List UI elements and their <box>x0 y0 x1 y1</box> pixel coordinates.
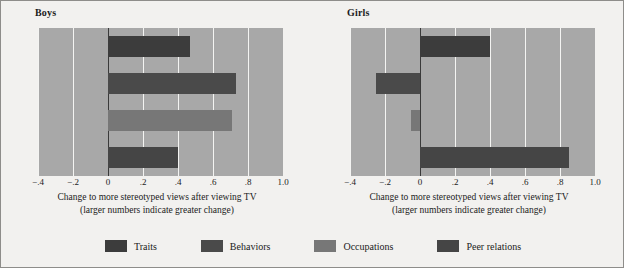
x-axis-ticks-girls: −.4−.20.2.4.6.81.0 <box>350 177 595 191</box>
bar <box>420 36 490 57</box>
x-axis-label-girls: Change to more stereotyped views after v… <box>313 191 624 204</box>
x-axis-ticks-boys: −.4−.20.2.4.6.81.0 <box>38 177 283 191</box>
legend-swatch <box>201 240 223 252</box>
figure-container: Boys −.4−.20.2.4.6.81.0 Change to more s… <box>0 0 624 268</box>
bar <box>420 147 569 168</box>
x-axis-caption-girls: Change to more stereotyped views after v… <box>313 191 624 216</box>
gridline <box>38 28 39 176</box>
x-tick-label: .2 <box>452 177 459 187</box>
x-tick-label: .8 <box>557 177 564 187</box>
panel-title-boys: Boys <box>35 7 56 18</box>
legend-item: Peer relations <box>437 240 521 252</box>
x-tick-label: 1.0 <box>277 177 288 187</box>
legend-item: Traits <box>105 240 157 252</box>
bar <box>376 73 420 94</box>
legend-swatch <box>105 240 127 252</box>
bar <box>108 147 178 168</box>
legend-item: Occupations <box>314 240 393 252</box>
x-axis-sublabel-girls: (larger numbers indicate greater change) <box>313 204 624 217</box>
panel-girls: Girls −.4−.20.2.4.6.81.0 Change to more … <box>313 1 624 229</box>
gridline <box>350 28 351 176</box>
x-tick-label: −.4 <box>32 177 44 187</box>
x-tick-label: .4 <box>487 177 494 187</box>
x-tick-label: −.2 <box>67 177 79 187</box>
legend-label: Occupations <box>343 241 393 252</box>
x-tick-label: .6 <box>210 177 217 187</box>
bar <box>108 73 236 94</box>
x-tick-label: .8 <box>245 177 252 187</box>
x-tick-label: 1.0 <box>589 177 600 187</box>
x-axis-label-boys: Change to more stereotyped views after v… <box>1 191 313 204</box>
chart-legend: TraitsBehaviorsOccupationsPeer relations <box>1 235 624 257</box>
plot-canvas-girls <box>350 28 595 176</box>
legend-item: Behaviors <box>201 240 271 252</box>
plot-area-girls <box>350 28 595 176</box>
gridline <box>248 28 249 176</box>
legend-label: Traits <box>134 241 157 252</box>
gridline <box>385 28 386 176</box>
x-tick-label: −.2 <box>379 177 391 187</box>
plot-canvas-boys <box>38 28 283 176</box>
legend-label: Peer relations <box>466 241 521 252</box>
x-tick-label: .6 <box>522 177 529 187</box>
panel-boys: Boys −.4−.20.2.4.6.81.0 Change to more s… <box>1 1 313 229</box>
gridline <box>73 28 74 176</box>
x-axis-sublabel-boys: (larger numbers indicate greater change) <box>1 204 313 217</box>
x-tick-label: 0 <box>106 177 111 187</box>
bar <box>108 36 190 57</box>
plot-area-boys <box>38 28 283 176</box>
x-tick-label: .2 <box>140 177 147 187</box>
panels-row: Boys −.4−.20.2.4.6.81.0 Change to more s… <box>1 1 624 229</box>
panel-title-girls: Girls <box>347 7 370 18</box>
legend-swatch <box>437 240 459 252</box>
gridline <box>213 28 214 176</box>
x-tick-label: .4 <box>175 177 182 187</box>
x-tick-label: 0 <box>418 177 423 187</box>
bar <box>411 110 420 131</box>
x-axis-caption-boys: Change to more stereotyped views after v… <box>1 191 313 216</box>
legend-swatch <box>314 240 336 252</box>
x-tick-label: −.4 <box>344 177 356 187</box>
bar <box>108 110 232 131</box>
legend-label: Behaviors <box>230 241 271 252</box>
